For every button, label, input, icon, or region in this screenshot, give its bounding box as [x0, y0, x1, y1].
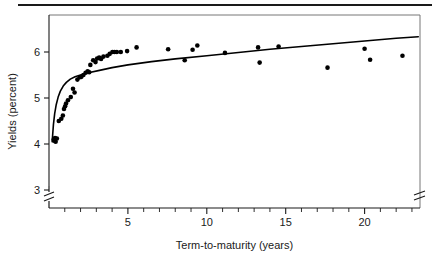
data-point	[190, 47, 195, 52]
data-point	[125, 49, 130, 54]
data-point	[55, 136, 60, 141]
data-point	[61, 113, 66, 118]
y-axis-title: Yields (percent)	[6, 73, 18, 150]
data-points	[51, 43, 404, 144]
x-axis-tick-label: 10	[201, 216, 213, 228]
data-point	[119, 50, 124, 55]
x-axis-tick-label: 20	[358, 216, 370, 228]
data-point	[134, 45, 139, 50]
y-axis: 3456	[34, 15, 54, 208]
x-axis-tick-label: 15	[280, 216, 292, 228]
data-point	[115, 50, 120, 55]
data-point	[166, 47, 171, 52]
figure-container: 3456 5101520 Term-to-maturity (years)Yie…	[0, 0, 445, 266]
data-point	[87, 70, 92, 75]
data-point	[223, 51, 228, 56]
y-axis-tick-label: 5	[34, 92, 40, 104]
y-axis-tick-label: 3	[34, 184, 40, 196]
data-point	[368, 58, 373, 63]
data-point	[400, 53, 405, 58]
data-point	[68, 95, 73, 100]
y-axis-tick-label: 6	[34, 46, 40, 58]
data-point	[325, 65, 330, 70]
data-point	[256, 45, 261, 50]
data-point	[195, 43, 200, 48]
fitted-yield-curve	[52, 37, 418, 142]
x-axis-tick-label: 5	[125, 216, 131, 228]
plot-box-border	[49, 15, 420, 208]
x-axis: 5101520	[49, 191, 425, 228]
data-point	[257, 60, 262, 65]
x-axis-title: Term-to-maturity (years)	[176, 239, 293, 251]
data-point	[101, 54, 106, 59]
fitted-curve	[52, 37, 418, 142]
y-axis-break-mark	[44, 186, 54, 208]
data-point	[88, 63, 93, 68]
scatter-plot: 3456 5101520 Term-to-maturity (years)Yie…	[0, 0, 445, 266]
data-point	[362, 46, 367, 51]
data-point	[182, 58, 187, 63]
data-point	[72, 90, 77, 95]
y-axis-tick-label: 4	[34, 138, 40, 150]
plot-frame	[49, 15, 420, 208]
data-point	[276, 44, 281, 49]
